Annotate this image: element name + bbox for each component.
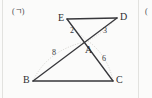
panel-label: (ㄱ) [12, 8, 24, 16]
segment-ed [67, 18, 117, 19]
vertex-label-b: B [23, 75, 30, 85]
figure-panel: (ㄱ) ( E D A B C 2 3 8 6 [0, 0, 152, 98]
segment-length-ba: 8 [52, 49, 56, 57]
segment-length-ea: 2 [70, 27, 74, 35]
segment-length-ad: 3 [103, 27, 107, 35]
vertex-label-a: A [85, 45, 92, 55]
segment-length-ac: 6 [102, 55, 106, 63]
vertex-label-c: C [116, 75, 123, 85]
vertex-label-d: D [120, 12, 127, 22]
right-edge-fragment: ( [145, 8, 148, 16]
vertex-label-e: E [58, 13, 64, 23]
